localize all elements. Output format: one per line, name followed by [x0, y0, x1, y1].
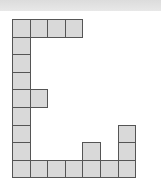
grid-cell [82, 160, 101, 179]
grid-cell [118, 142, 137, 161]
grid-cell [12, 54, 31, 73]
grid-cell [47, 19, 66, 38]
grid-cell [12, 160, 31, 179]
grid-cell [12, 142, 31, 161]
grid-cell [118, 160, 137, 179]
grid-cell [30, 160, 49, 179]
grid-cell [47, 160, 66, 179]
grid-cell [100, 160, 119, 179]
grid-cell [12, 107, 31, 126]
grid-cell [12, 89, 31, 108]
grid-cell [30, 19, 49, 38]
grid-cell [12, 19, 31, 38]
grid-cell [12, 37, 31, 56]
grid-cell [65, 19, 84, 38]
grid-cell [12, 125, 31, 144]
polyomino-grid [0, 0, 161, 186]
grid-cell [118, 125, 137, 144]
grid-cell [12, 72, 31, 91]
grid-cell [82, 142, 101, 161]
grid-cell [65, 160, 84, 179]
grid-cell [30, 89, 49, 108]
